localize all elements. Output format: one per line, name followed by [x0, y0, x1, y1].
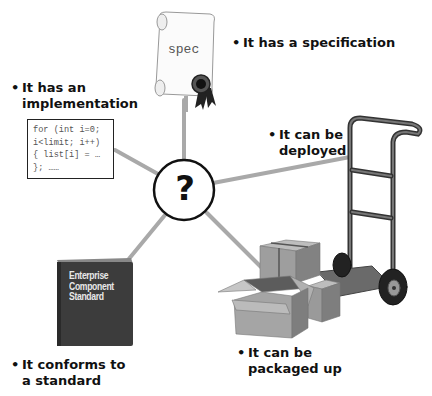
scroll-certificate-icon [155, 12, 216, 112]
bullet-icon: • [11, 357, 19, 373]
label-line: a standard [22, 373, 125, 389]
connector-deployed [213, 157, 350, 183]
label-line: implementation [22, 96, 138, 112]
label-line: It can be [279, 127, 346, 143]
label-implementation: • It has an implementation [22, 80, 138, 112]
bullet-icon: • [268, 127, 276, 143]
code-line: i<limit; i++) [33, 137, 108, 150]
component-characteristics-diagram: spec ? for (int i=0; i<limit; i++) { lis… [0, 0, 432, 396]
label-line: packaged up [248, 361, 342, 377]
connector-packaged [207, 213, 262, 268]
label-deployed: • It can be deployed [279, 127, 346, 159]
label-line: It can be [248, 345, 342, 361]
bullet-icon: • [11, 80, 19, 96]
bullet-icon: • [232, 35, 240, 51]
connector-standard [128, 215, 165, 260]
cardboard-boxes-icon [218, 240, 340, 338]
book-title-line: Enterprise [69, 270, 118, 281]
label-line: It has an [22, 80, 138, 96]
code-line: for (int i=0; [33, 124, 108, 137]
code-line: { list[i] = … [33, 149, 108, 162]
book-title-line: Standard [69, 291, 118, 302]
spec-scroll-text: spec [168, 42, 199, 57]
label-line: deployed [279, 143, 346, 159]
label-line: It conforms to [22, 357, 125, 373]
code-snippet-icon: for (int i=0; i<limit; i++) { list[i] = … [27, 119, 114, 179]
label-line: It has a specification [243, 35, 395, 51]
bullet-icon: • [237, 345, 245, 361]
label-specification: • It has a specification [243, 35, 395, 51]
diagram-graphics [0, 0, 432, 396]
book-cover-title: Enterprise Component Standard [69, 270, 118, 302]
question-mark-icon: ? [168, 168, 202, 208]
code-line: }; …… [33, 162, 108, 175]
label-packaged: • It can be packaged up [248, 345, 342, 377]
connector-implementation [115, 150, 158, 174]
label-standard: • It conforms to a standard [22, 357, 125, 389]
